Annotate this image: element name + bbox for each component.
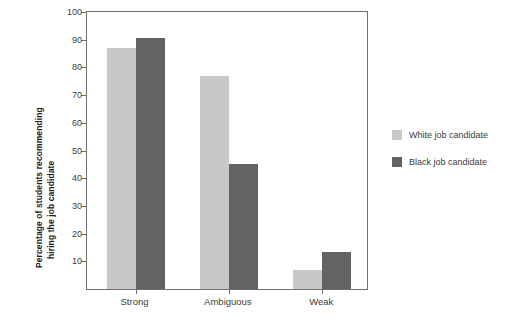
bar-weak-white [293, 270, 322, 289]
y-axis-tick-label: 70 [72, 90, 82, 100]
legend-swatch-white-icon [392, 130, 402, 140]
y-axis-title-line-2: hiring the job candidate [46, 161, 56, 259]
y-axis-tick-label: 100 [67, 7, 82, 17]
bar-weak-black [322, 252, 351, 289]
legend-label-white: White job candidate [409, 130, 488, 140]
x-axis-label-weak: Weak [309, 296, 333, 307]
legend-label-black: Black job candidate [409, 157, 487, 167]
bar-strong-white [107, 48, 136, 289]
y-axis-tick-label: 30 [72, 201, 82, 211]
y-axis-tick-label: 90 [72, 35, 82, 45]
x-axis-tick [136, 289, 137, 294]
x-axis-label-ambiguous: Ambiguous [204, 296, 252, 307]
y-axis-title-line-1: Percentage of students recommending [34, 107, 44, 268]
x-axis-tick [322, 289, 323, 294]
bar-ambiguous-white [200, 76, 229, 289]
x-axis-tick [229, 289, 230, 294]
y-axis-tick-label: 40 [72, 173, 82, 183]
x-axis-label-strong: Strong [121, 296, 149, 307]
y-axis-tick-label: 50 [72, 146, 82, 156]
bar-ambiguous-black [229, 164, 258, 289]
plot-area: 100908070605040302010 [86, 11, 368, 290]
y-axis-tick-label: 20 [72, 229, 82, 239]
y-axis-title: Percentage of students recommending hiri… [22, 40, 46, 270]
y-axis-tick-label: 10 [72, 256, 82, 266]
y-axis-tick-label: 80 [72, 62, 82, 72]
legend-item-white-job-candidate: White job candidate [392, 130, 512, 140]
legend-item-black-job-candidate: Black job candidate [392, 157, 512, 167]
y-axis-tick-label: 60 [72, 118, 82, 128]
bar-chart-figure: Percentage of students recommending hiri… [0, 0, 514, 330]
chart-legend: White job candidate Black job candidate [392, 130, 512, 184]
legend-swatch-black-icon [392, 157, 402, 167]
bar-strong-black [136, 38, 165, 289]
plot-inner [87, 12, 367, 289]
